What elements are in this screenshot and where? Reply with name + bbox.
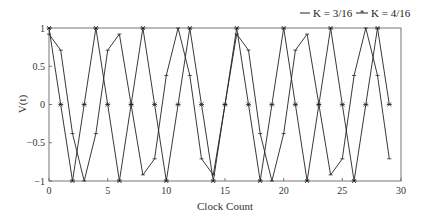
x-tick-label: 15 <box>220 185 230 196</box>
x-tick-label: 25 <box>337 185 347 196</box>
series-k-3-16 <box>47 28 391 181</box>
y-tick-label: −0.5 <box>27 137 45 148</box>
legend-item-k-3-16: K = 3/16 <box>300 7 353 19</box>
legend-item-k-4-16: * K = 4/16 <box>356 7 411 19</box>
star-marker-icon: * <box>360 9 364 18</box>
x-tick-label: 20 <box>279 185 289 196</box>
y-tick-label: 0 <box>40 99 45 110</box>
legend-label: K = 4/16 <box>371 7 411 19</box>
x-axis-label: Clock Count <box>197 200 253 212</box>
series-lines <box>47 26 392 183</box>
x-tick-label: 0 <box>47 185 52 196</box>
chart: K = 3/16 * K = 4/16 10.50−0.5−1 05101520… <box>0 0 425 219</box>
y-axis: 10.50−0.5−1 <box>27 23 52 187</box>
y-tick-label: 1 <box>40 23 45 34</box>
series-k-4-16 <box>47 26 392 183</box>
x-tick-label: 10 <box>161 185 171 196</box>
y-tick-label: 0.5 <box>33 61 46 72</box>
y-tick-label: −1 <box>34 176 45 187</box>
x-tick-label: 30 <box>396 185 406 196</box>
legend: K = 3/16 * K = 4/16 <box>300 7 411 19</box>
legend-label: K = 3/16 <box>313 7 353 19</box>
y-axis-label: V(t) <box>16 95 29 114</box>
x-tick-label: 5 <box>105 185 110 196</box>
